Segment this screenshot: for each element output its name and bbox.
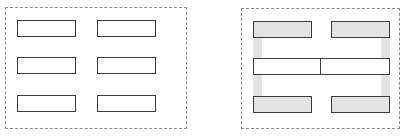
- rectangle-l-r3c1[interactable]: [17, 95, 76, 112]
- rectangle-r-r3c1[interactable]: [253, 96, 312, 113]
- rectangle-l-r1c2[interactable]: [97, 20, 156, 37]
- panel-right-boxes: [242, 9, 399, 128]
- rectangle-l-r1c1[interactable]: [17, 20, 76, 37]
- rectangle-l-r3c2[interactable]: [97, 95, 156, 112]
- rectangle-r-r2c2[interactable]: [320, 58, 390, 75]
- rectangle-l-r2c2[interactable]: [97, 57, 156, 74]
- rectangle-r-r3c2[interactable]: [331, 96, 390, 113]
- rectangle-r-r1c2[interactable]: [331, 21, 390, 38]
- rectangle-r-r2c1[interactable]: [253, 58, 323, 75]
- panel-left: [5, 7, 187, 129]
- rectangle-r-r1c1[interactable]: [253, 21, 312, 38]
- figure-canvas: [0, 0, 408, 137]
- panel-right: [241, 8, 400, 129]
- rectangle-l-r2c1[interactable]: [17, 57, 76, 74]
